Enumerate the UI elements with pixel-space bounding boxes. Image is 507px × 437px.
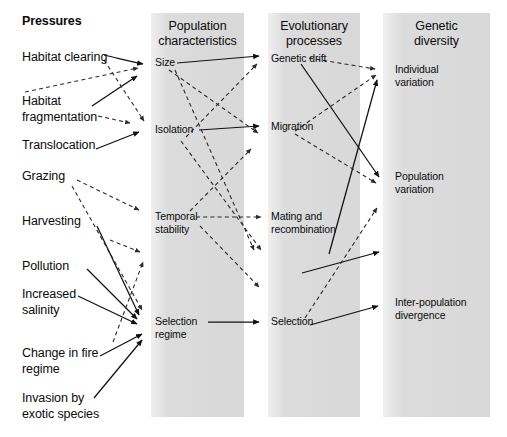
link-harvesting-to-selection-regime: [97, 226, 139, 315]
pressure-invasion-by-exotic-species: Invasion by exotic species: [22, 390, 99, 422]
link-translocation-to-isolation: [96, 132, 139, 149]
pressure-habitat-clearing: Habitat clearing: [22, 49, 107, 65]
column-heading-population-characteristics: Population characteristics: [151, 19, 244, 49]
node-inter-population-divergence: Inter-population divergence: [395, 296, 466, 321]
node-selection-regime: Selection regime: [155, 315, 197, 340]
link-mating-and-recombination-to-inter-population-divergence: [302, 252, 379, 273]
node-size: Size: [155, 56, 175, 69]
page-title: Pressures: [22, 15, 82, 29]
pressure-change-in-fire-regime: Change in fire regime: [22, 345, 98, 377]
node-migration: Migration: [271, 120, 313, 133]
link-isolation-to-migration: [199, 126, 259, 130]
link-invasion-by-exotic-species-to-selection-regime: [94, 340, 142, 398]
node-genetic-drift: Genetic drift: [271, 52, 326, 65]
pressure-translocation: Translocation: [22, 137, 95, 153]
node-isolation: Isolation: [155, 123, 193, 136]
link-size-to-genetic-drift: [177, 56, 259, 63]
pressure-increased-salinity: Increased salinity: [22, 286, 76, 318]
link-temporal-stability-to-genetic-drift: [190, 149, 251, 211]
column-heading-evolutionary-processes: Evolutionary processes: [268, 19, 360, 49]
link-habitat-clearing-to-size: [104, 55, 143, 64]
pressure-grazing: Grazing: [22, 168, 65, 184]
link-grazing-to-temporal-stability: [77, 180, 139, 210]
pressure-harvesting: Harvesting: [22, 213, 81, 229]
node-temporal-stability: Temporal stability: [155, 210, 197, 235]
pressure-pollution: Pollution: [22, 258, 69, 274]
column-heading-genetic-diversity: Genetic diversity: [383, 19, 490, 49]
link-habitat-fragmentation-to-size-dashed: [25, 68, 138, 92]
node-mating-and-recombination: Mating and recombination: [271, 210, 336, 235]
link-harvesting-to-temporal-stability: [110, 240, 140, 252]
link-selection-to-inter-population-divergence: [310, 306, 378, 325]
link-habitat-fragmentation-to-size: [92, 76, 137, 106]
link-habitat-clearing-to-isolation: [104, 60, 144, 121]
link-change-in-fire-regime-to-selection-regime: [100, 334, 142, 356]
node-selection: Selection: [271, 315, 313, 328]
link-change-in-fire-regime-to-temporal-stability: [113, 262, 143, 342]
link-migration-to-population-variation: [295, 134, 376, 183]
figure-canvas: Pressures Population characteristics Evo…: [0, 0, 507, 437]
node-population-variation: Population variation: [395, 170, 444, 195]
pressure-habitat-fragmentation: Habitat fragmentation: [22, 93, 97, 125]
node-individual-variation: Individual variation: [395, 63, 438, 88]
link-habitat-fragmentation-to-isolation: [98, 116, 130, 123]
link-migration-to-individual-variation: [329, 80, 377, 254]
link-isolation-to-genetic-drift: [186, 64, 257, 137]
